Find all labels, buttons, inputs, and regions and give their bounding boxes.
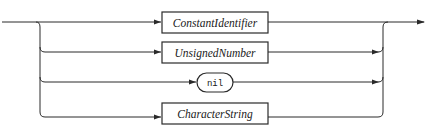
- arrow-icon: [189, 80, 196, 85]
- branch-line-3: [40, 77, 196, 82]
- nonterminal-label: CharacterString: [177, 108, 253, 121]
- terminal-nil: nil: [197, 73, 233, 92]
- left-branch-rail: [36, 22, 45, 117]
- nonterminal-unsigned-number: UnsignedNumber: [162, 42, 268, 63]
- terminal-label: nil: [207, 79, 223, 89]
- merge-line-2: [268, 47, 383, 52]
- arrow-icon: [372, 50, 379, 55]
- nonterminal-label: UnsignedNumber: [174, 47, 256, 60]
- arrow-icon: [154, 20, 161, 25]
- branch-line-2: [40, 47, 161, 52]
- arrow-icon: [372, 80, 379, 85]
- merge-line-3: [233, 77, 383, 82]
- right-merge-rail: [268, 22, 388, 117]
- nonterminal-constant-identifier: ConstantIdentifier: [162, 12, 268, 33]
- syntax-diagram: ConstantIdentifier UnsignedNumber nil Ch…: [0, 0, 430, 133]
- nonterminal-character-string: CharacterString: [162, 103, 268, 124]
- arrow-icon: [154, 50, 161, 55]
- arrow-icon: [154, 115, 161, 120]
- arrow-icon: [417, 20, 425, 25]
- nonterminal-label: ConstantIdentifier: [173, 17, 258, 30]
